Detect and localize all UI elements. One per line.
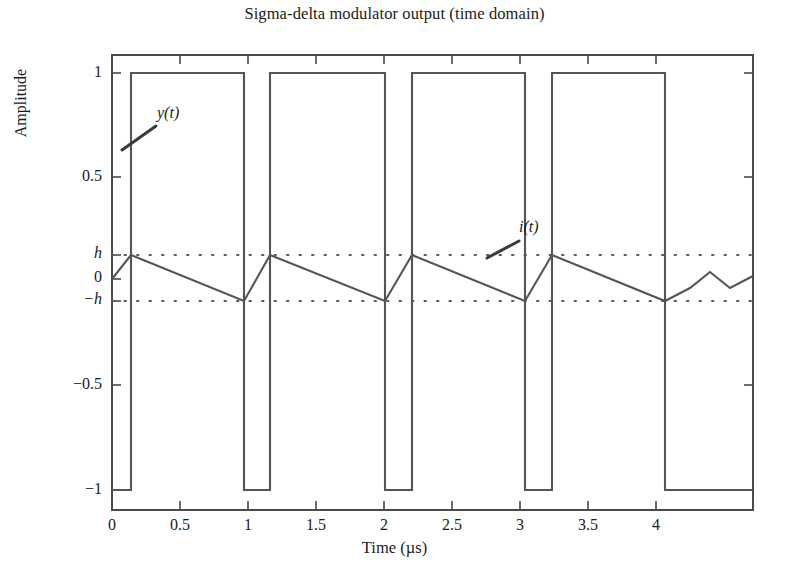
x-tick-label-4: 4	[626, 516, 686, 534]
y-tick-label-h: h	[50, 244, 102, 262]
plot-area	[0, 0, 789, 572]
y-tick-label-minus-1: −1	[44, 480, 102, 498]
y-tick-label-minus-h: −h	[50, 290, 102, 308]
x-tick-label-3: 3	[490, 516, 550, 534]
chart-figure: Sigma-delta modulator output (time domai…	[0, 0, 789, 572]
series-y-of-t	[112, 73, 753, 490]
y-tick-label-1: 1	[50, 63, 102, 81]
series-i-of-t	[112, 255, 753, 301]
x-axis-title: Time (µs)	[0, 538, 789, 558]
x-tick-label-2: 2	[354, 516, 414, 534]
y-tick-label-0: 0	[50, 268, 102, 286]
series-label-y-of-t: y(t)	[157, 104, 179, 122]
y-axis-title: Amplitude	[12, 18, 30, 188]
plot-frame	[112, 55, 753, 510]
y-tick-label-minus-0-5: −0.5	[44, 375, 102, 393]
y-tick-marks	[112, 73, 753, 490]
y-tick-label-0-5: 0.5	[50, 167, 102, 185]
y-of-t-leader-line	[122, 126, 156, 150]
x-tick-label-1: 1	[218, 516, 278, 534]
x-tick-label-3-5: 3.5	[558, 516, 618, 534]
x-tick-label-2-5: 2.5	[422, 516, 482, 534]
x-tick-label-0: 0	[82, 516, 142, 534]
series-label-i-of-t: i(t)	[519, 218, 539, 236]
x-tick-label-1-5: 1.5	[286, 516, 346, 534]
x-tick-label-0-5: 0.5	[150, 516, 210, 534]
